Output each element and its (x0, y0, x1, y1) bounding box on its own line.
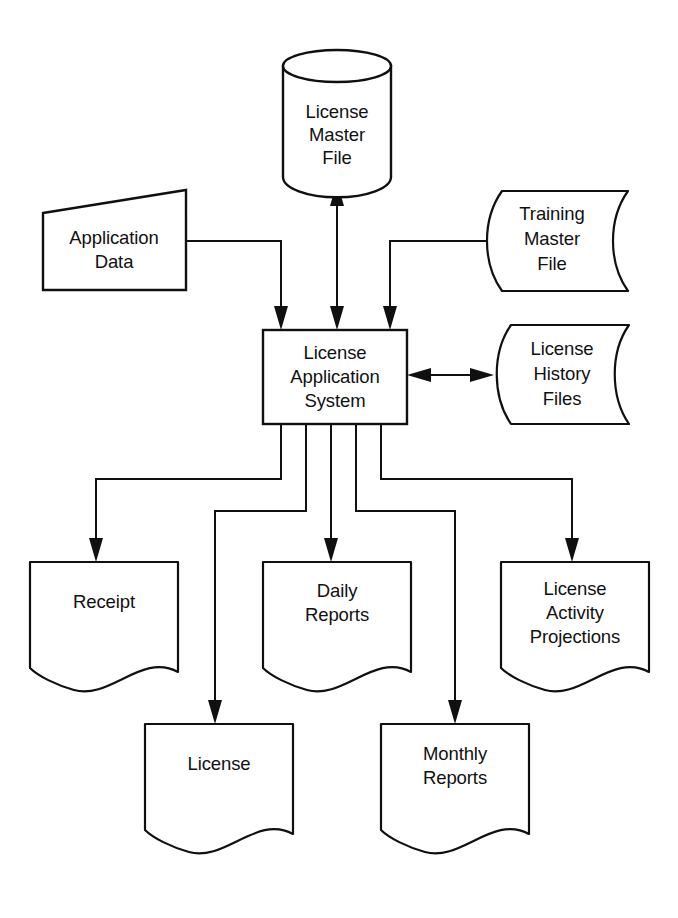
node-label-line: Activity (546, 602, 605, 623)
node-license-activity-projections[interactable]: License Activity Projections (501, 562, 649, 691)
node-label-line: System (304, 390, 365, 411)
connector-training-master-file-to-system (383, 241, 487, 330)
connector-system-to-license-activity-projections (381, 424, 579, 562)
node-label-line: Monthly (423, 743, 488, 764)
node-label-line: Master (524, 228, 580, 249)
node-label-line: Data (95, 251, 134, 272)
node-label-line: License (530, 338, 593, 359)
node-monthly-reports[interactable]: Monthly Reports (381, 724, 529, 853)
connector-application-data-to-system (186, 241, 288, 330)
node-label-line: Application (69, 227, 158, 248)
connector-system-to-daily-reports (324, 424, 338, 562)
node-label-line: Reports (423, 767, 487, 788)
system-flowchart: License Master File Application Data Tra… (0, 0, 678, 918)
node-label-line: License (303, 342, 366, 363)
node-label-line: History (534, 363, 592, 384)
node-application-data[interactable]: Application Data (43, 190, 186, 290)
node-license-application-system[interactable]: License Application System (263, 330, 407, 424)
node-label-line: Training (519, 203, 584, 224)
node-daily-reports[interactable]: Daily Reports (263, 562, 411, 691)
node-label-line: Daily (317, 580, 358, 601)
node-label-line: License (187, 753, 250, 774)
node-training-master-file[interactable]: Training Master File (487, 191, 628, 291)
node-label-line: Receipt (73, 591, 135, 612)
flowchart-canvas: License Master File Application Data Tra… (0, 0, 678, 918)
node-label-line: File (537, 253, 566, 274)
node-license[interactable]: License (145, 724, 293, 853)
node-label-line: License (305, 101, 368, 122)
connector-system-to-receipt (89, 424, 281, 562)
node-label-line: Reports (305, 604, 369, 625)
node-receipt[interactable]: Receipt (30, 562, 178, 691)
node-label-line: Application (290, 366, 379, 387)
connector-system-to-license-history-files (407, 368, 494, 382)
node-label-line: Files (543, 388, 582, 409)
node-label-line: File (322, 147, 351, 168)
node-label-line: Projections (530, 626, 620, 647)
node-label-line: License (543, 578, 606, 599)
node-license-master-file[interactable]: License Master File (283, 50, 391, 197)
node-label-line: Master (309, 124, 365, 145)
node-license-history-files[interactable]: License History Files (497, 325, 629, 424)
connector-license-master-file-to-system (330, 182, 344, 330)
